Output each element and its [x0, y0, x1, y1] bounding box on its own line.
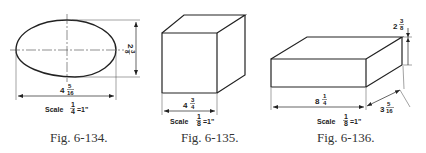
fig-6-134-caption: Fig. 6-134.: [50, 130, 107, 146]
svg-text:4: 4: [183, 101, 188, 110]
scale-label: Scale 1 4 =1": [45, 101, 88, 115]
svg-text:8: 8: [124, 50, 130, 54]
height-dimension-label: 2 3 8: [393, 18, 404, 31]
svg-text:8: 8: [197, 120, 201, 127]
svg-text:=1": =1": [77, 106, 88, 113]
fig-6-134-drawing: 2 3 8 4 5 16 Scale 1 4 =1": [10, 14, 140, 115]
svg-text:Scale: Scale: [45, 106, 63, 113]
svg-text:Scale: Scale: [317, 118, 335, 125]
svg-text:5: 5: [68, 83, 72, 89]
svg-text:=1": =1": [350, 118, 361, 125]
length-dimension-label: 8 1 4: [315, 93, 327, 106]
cube-top-face: [162, 15, 245, 33]
depth-dimension-line: [367, 90, 400, 106]
svg-text:16: 16: [67, 90, 74, 96]
fig-6-135-drawing: 4 3 4 Scale 1 8 =1": [162, 15, 245, 127]
svg-text:1: 1: [344, 113, 348, 120]
cube-front-face: [162, 33, 217, 93]
svg-text:3: 3: [191, 97, 195, 103]
svg-text:3: 3: [380, 105, 385, 114]
svg-text:2: 2: [393, 22, 398, 31]
depth-dimension-label: 3 5 16: [380, 101, 394, 114]
svg-text:=1": =1": [203, 118, 214, 125]
ellipse-outline: [16, 20, 116, 77]
svg-text:4: 4: [71, 108, 75, 115]
svg-text:16: 16: [386, 108, 393, 114]
box-side-face: [366, 37, 402, 87]
svg-text:8: 8: [344, 120, 348, 127]
scale-label: Scale 1 8 =1": [317, 113, 361, 127]
fig-6-136-caption: Fig. 6-136.: [317, 130, 374, 146]
svg-text:4: 4: [191, 104, 195, 110]
svg-text:4: 4: [323, 100, 327, 106]
box-top-face: [271, 37, 402, 59]
svg-text:2: 2: [126, 44, 135, 49]
svg-text:8: 8: [315, 97, 320, 106]
svg-text:1: 1: [197, 113, 201, 120]
svg-text:4: 4: [60, 86, 65, 95]
fig-6-136-drawing: 2 3 8 8 1 4 3 5 16 Scale 1 8 =: [271, 18, 412, 127]
svg-text:Scale: Scale: [170, 118, 188, 125]
scale-label: Scale 1 8 =1": [170, 113, 214, 127]
fig-6-135-caption: Fig. 6-135.: [181, 130, 238, 146]
height-dimension-label: 2 3 8: [124, 44, 136, 55]
svg-text:8: 8: [400, 25, 404, 31]
width-dimension-label: 4 5 16: [60, 83, 74, 96]
box-front-face: [271, 59, 366, 87]
svg-text:1: 1: [323, 93, 327, 99]
cube-side-face: [217, 15, 245, 93]
svg-text:1: 1: [71, 101, 75, 108]
svg-text:3: 3: [400, 18, 404, 24]
svg-text:5: 5: [387, 101, 391, 107]
width-dimension-label: 4 3 4: [183, 97, 195, 110]
